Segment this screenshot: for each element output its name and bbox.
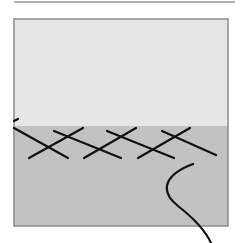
lower-region — [14, 126, 228, 226]
upper-region — [14, 19, 228, 126]
diagram-box — [14, 19, 228, 226]
diagram-canvas — [0, 0, 241, 243]
